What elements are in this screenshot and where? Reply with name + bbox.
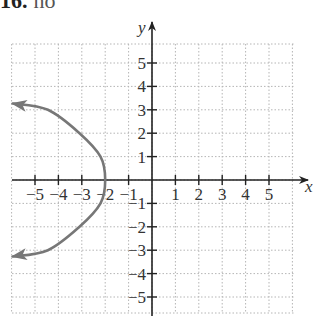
x-axis-label: x <box>304 177 313 196</box>
x-tick-label: 1 <box>171 185 180 204</box>
coordinate-plane: −5−4−3−2−112345−5−4−3−2−112345 x y <box>0 0 318 329</box>
x-tick-label: 2 <box>195 185 204 204</box>
x-tick-label: −4 <box>49 185 68 204</box>
y-tick-label: −4 <box>128 265 147 284</box>
axes <box>12 22 308 316</box>
y-tick-label: 4 <box>138 77 147 96</box>
x-tick-label: 3 <box>218 185 227 204</box>
y-tick-label: 1 <box>138 148 147 167</box>
x-tick-label: −5 <box>26 185 44 204</box>
y-tick-label: −1 <box>128 194 146 213</box>
y-tick-label: 5 <box>138 54 147 73</box>
y-tick-label: 3 <box>138 101 147 120</box>
x-tick-label: 4 <box>241 185 250 204</box>
x-tick-label: −3 <box>73 185 91 204</box>
y-tick-label: 2 <box>138 124 147 143</box>
y-tick-label: −3 <box>128 241 146 260</box>
y-axis-label: y <box>136 18 146 37</box>
y-tick-label: −2 <box>128 218 146 237</box>
y-tick-label: −5 <box>128 288 146 307</box>
x-tick-label: 5 <box>265 185 274 204</box>
